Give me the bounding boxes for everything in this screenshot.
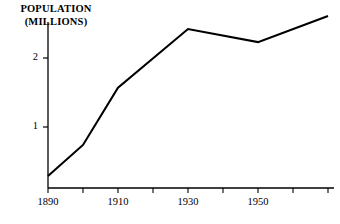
y-axis-title: POPULATION (MILLIONS) (0, 2, 112, 28)
population-data-line (48, 16, 328, 176)
x-tick-label-1930: 1930 (170, 196, 206, 207)
chart-plot-area (0, 0, 340, 224)
x-tick-label-1910: 1910 (100, 196, 136, 207)
y-tick-label-1: 1 (22, 120, 38, 131)
x-tick-label-1950: 1950 (240, 196, 276, 207)
y-axis-title-line2: (MILLIONS) (0, 15, 112, 28)
x-axis-ticks (48, 188, 328, 193)
population-line-chart: POPULATION (MILLIONS) 2 1 1890 1910 1930… (0, 0, 340, 224)
y-axis-ticks (43, 58, 48, 127)
x-tick-label-1890: 1890 (30, 196, 66, 207)
y-tick-label-2: 2 (22, 51, 38, 62)
y-axis-title-line1: POPULATION (0, 2, 112, 15)
